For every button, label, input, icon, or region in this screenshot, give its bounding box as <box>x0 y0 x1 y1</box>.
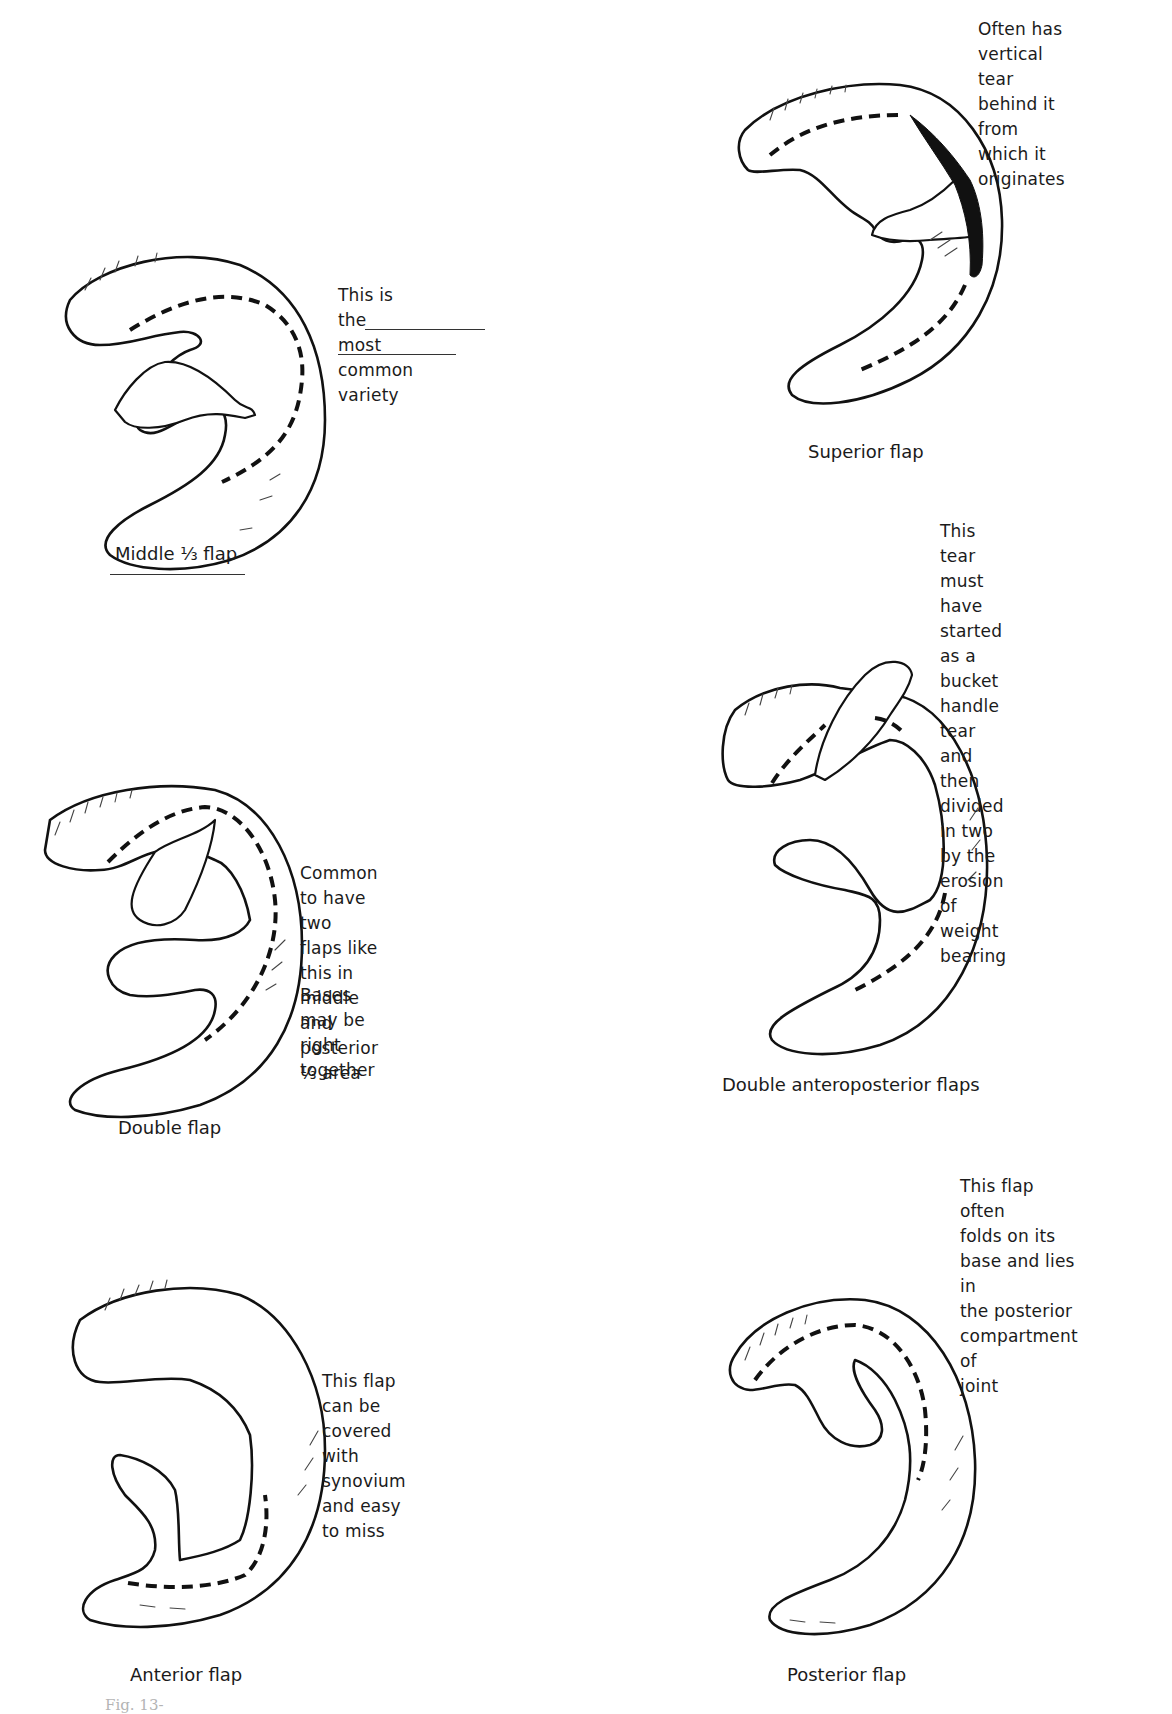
caption-superior-flap: Superior flap <box>808 440 924 464</box>
meniscus-double-flap-drawing <box>0 780 320 1120</box>
note-middle-third: This is the most common variety <box>338 283 413 408</box>
note-underline <box>338 354 456 355</box>
note-double-flap-bases: Bases may be right together <box>300 983 375 1083</box>
caption-posterior-flap: Posterior flap <box>787 1663 906 1687</box>
caption-double-anteroposterior-flaps: Double anteroposterior flaps <box>722 1073 980 1097</box>
note-double-anteroposterior: This tear must have started as a bucket … <box>940 519 1006 969</box>
note-superior: Often has vertical tear behind it from w… <box>978 17 1065 192</box>
note-underline <box>365 329 485 330</box>
caption-anterior-flap: Anterior flap <box>130 1663 242 1687</box>
meniscus-superior-flap-drawing <box>700 70 1020 410</box>
meniscus-middle-third-flap-drawing <box>40 250 340 580</box>
caption-double-flap: Double flap <box>118 1116 221 1140</box>
caption-middle-third-flap: Middle ⅓ flap <box>115 542 237 566</box>
meniscus-anterior-flap-drawing <box>40 1270 340 1640</box>
note-posterior-flap: This flap often folds on its base and li… <box>960 1174 1078 1399</box>
meniscus-posterior-flap-drawing <box>710 1280 990 1640</box>
figure-number-fragment: Fig. 13- <box>105 1696 164 1714</box>
caption-underline <box>110 574 245 575</box>
note-anterior-flap: This flap can be covered with synovium a… <box>322 1369 406 1544</box>
